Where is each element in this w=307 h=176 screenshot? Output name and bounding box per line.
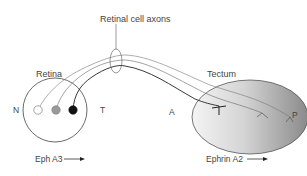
eph-a3-arrow — [64, 157, 85, 161]
eph-a3-label: Eph A3 — [35, 154, 62, 164]
temporal-label: T — [100, 105, 105, 115]
anterior-label: A — [169, 107, 175, 117]
retina-label: Retina — [36, 69, 62, 79]
posterior-label: P — [292, 110, 298, 120]
retina-cell-temporal — [69, 106, 77, 114]
retinotectal-diagram — [0, 0, 307, 176]
retina-cell-nasal — [34, 106, 42, 114]
ephrin-a2-arrow — [247, 157, 268, 161]
axon-bundle-marker — [110, 49, 122, 73]
retina-cell-middle — [52, 106, 60, 114]
tectum-label: Tectum — [207, 69, 236, 79]
axons-label: Retinal cell axons — [100, 14, 171, 24]
nasal-label: N — [13, 105, 19, 115]
ephrin-a2-label: Ephrin A2 — [206, 154, 243, 164]
